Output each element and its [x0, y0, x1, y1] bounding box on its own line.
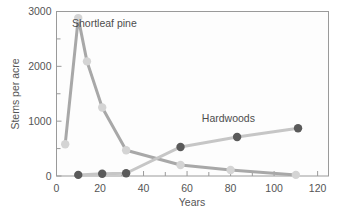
series-marker-1 — [176, 143, 184, 151]
x-tick-label: 80 — [225, 182, 237, 194]
y-tick-label: 2000 — [28, 60, 52, 72]
series-marker-0 — [226, 166, 234, 174]
chart-canvas: 0100020003000 020406080100120 Shortleaf … — [0, 0, 341, 222]
x-tick-label: 20 — [94, 182, 106, 194]
y-axis-title: Stems per acre — [9, 58, 21, 129]
series-marker-0 — [176, 161, 184, 169]
chart-figure: 0100020003000 020406080100120 Shortleaf … — [0, 0, 341, 222]
series-marker-0 — [98, 103, 106, 111]
x-tick-label: 40 — [138, 182, 150, 194]
series-marker-1 — [122, 169, 130, 177]
x-tick-label: 120 — [309, 182, 327, 194]
x-tick-label: 100 — [265, 182, 283, 194]
series-marker-0 — [292, 171, 300, 179]
series-marker-0 — [61, 140, 69, 148]
series-annotation-0: Shortleaf pine — [72, 17, 137, 29]
series-marker-1 — [98, 170, 106, 178]
series-marker-1 — [74, 171, 82, 179]
x-tick-label: 60 — [181, 182, 193, 194]
series-annotation-1: Hardwoods — [202, 112, 255, 124]
y-tick-label: 3000 — [28, 5, 52, 17]
series-marker-1 — [233, 133, 241, 141]
y-tick-label: 1000 — [28, 115, 52, 127]
series-marker-0 — [83, 57, 91, 65]
series-marker-0 — [122, 146, 130, 154]
y-tick-label: 0 — [46, 170, 52, 182]
x-tick-label: 0 — [54, 182, 60, 194]
x-axis-title: Years — [179, 196, 205, 208]
y-axis-tick-labels: 0100020003000 — [28, 5, 52, 182]
x-axis-tick-labels: 020406080100120 — [54, 182, 327, 194]
series-marker-1 — [294, 124, 302, 132]
